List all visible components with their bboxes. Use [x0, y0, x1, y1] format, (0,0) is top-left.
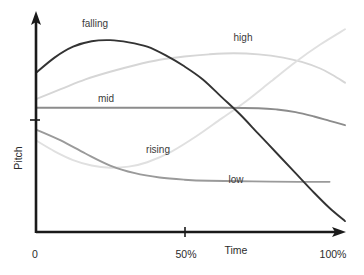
- series-label-mid: mid: [98, 93, 114, 104]
- x-tick-label-100: 100%: [320, 248, 347, 260]
- series-label-high: high: [234, 32, 253, 43]
- series-curve-low: [36, 130, 330, 182]
- x-axis-title: Time: [225, 244, 248, 256]
- series-group: [36, 29, 345, 221]
- series-label-falling: falling: [82, 18, 108, 29]
- axis-labels: 0 50% 100% Time Pitch: [12, 146, 346, 260]
- x-tick-label-0: 0: [32, 248, 38, 260]
- series-curve-rising: [36, 29, 345, 167]
- x-tick-label-50: 50%: [175, 248, 196, 260]
- series-curve-mid: [36, 108, 345, 125]
- chart-canvas: 0 50% 100% Time Pitch falling high mid r…: [0, 0, 364, 275]
- series-label-low: low: [228, 174, 244, 185]
- series-curve-falling: [36, 40, 345, 221]
- series-label-rising: rising: [146, 144, 170, 155]
- pitch-time-chart: 0 50% 100% Time Pitch falling high mid r…: [0, 0, 364, 275]
- y-axis-title: Pitch: [12, 146, 24, 170]
